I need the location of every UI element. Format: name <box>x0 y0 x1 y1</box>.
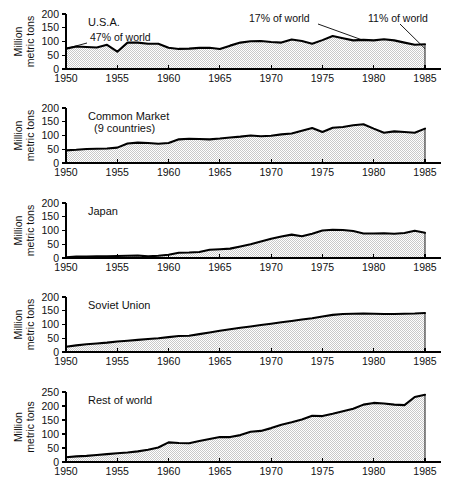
panel-series-label: Japan <box>88 205 118 217</box>
x-tick-label: 1975 <box>311 465 335 477</box>
x-tick-label: 1980 <box>362 166 386 178</box>
x-tick-label: 1985 <box>413 261 437 273</box>
y-tick-label: 200 <box>41 102 59 114</box>
y-tick-label: 250 <box>41 386 59 398</box>
x-tick-label: 1970 <box>259 261 283 273</box>
x-tick-label: 1955 <box>106 355 130 367</box>
x-tick-label: 1960 <box>157 355 181 367</box>
chart-panel: 0501001502001950195519601965197019751980… <box>12 8 441 84</box>
y-axis-title-line2: metric tons <box>24 299 36 350</box>
x-tick-label: 1985 <box>413 465 437 477</box>
y-tick-label: 50 <box>47 49 59 61</box>
x-tick-label: 1950 <box>54 465 78 477</box>
x-tick-label: 1975 <box>311 166 335 178</box>
annotation-label: 11% of world <box>368 12 428 24</box>
y-axis-title-line1: Million <box>12 26 24 56</box>
x-tick-label: 1985 <box>413 355 437 367</box>
x-tick-label: 1970 <box>259 355 283 367</box>
x-tick-label: 1950 <box>54 261 78 273</box>
chart-panel: 0501001502002501950195519601965197019751… <box>12 386 441 477</box>
y-tick-label: 150 <box>41 304 59 316</box>
x-tick-label: 1965 <box>208 261 232 273</box>
x-tick-label: 1950 <box>54 355 78 367</box>
y-tick-label: 100 <box>41 318 59 330</box>
x-tick-label: 1975 <box>311 261 335 273</box>
chart-panel: 0501001502001950195519601965197019751980… <box>12 291 441 367</box>
chart-canvas: 0501001502001950195519601965197019751980… <box>0 0 459 501</box>
y-axis-title-line1: Million <box>12 215 24 245</box>
x-tick-label: 1965 <box>208 72 232 84</box>
x-tick-label: 1960 <box>157 261 181 273</box>
y-tick-label: 100 <box>41 35 59 47</box>
y-axis-title-line1: Million <box>12 309 24 339</box>
x-tick-label: 1955 <box>106 166 130 178</box>
chart-panel: 0501001502001950195519601965197019751980… <box>12 197 441 273</box>
x-tick-label: 1985 <box>413 166 437 178</box>
y-tick-label: 100 <box>41 129 59 141</box>
chart-panel: 0501001502001950195519601965197019751980… <box>12 102 441 178</box>
x-tick-label: 1950 <box>54 166 78 178</box>
y-tick-label: 50 <box>47 238 59 250</box>
y-axis-title-line2: metric tons <box>24 205 36 256</box>
annotation-label: 47% of world <box>90 31 151 43</box>
y-tick-label: 150 <box>41 115 59 127</box>
x-tick-label: 1955 <box>106 465 130 477</box>
y-tick-label: 150 <box>41 414 59 426</box>
x-tick-label: 1955 <box>106 261 130 273</box>
y-tick-label: 200 <box>41 291 59 303</box>
x-tick-label: 1970 <box>259 465 283 477</box>
panel-series-label: Rest of world <box>88 394 152 406</box>
y-axis-title-line2: metric tons <box>24 110 36 161</box>
panel-series-label: Common Market <box>88 110 169 122</box>
steel-production-figure: 0501001502001950195519601965197019751980… <box>0 0 459 501</box>
panel-series-label: U.S.A. <box>88 16 120 28</box>
panel-series-label: Soviet Union <box>88 299 150 311</box>
y-axis-title-line1: Million <box>12 412 24 442</box>
x-tick-label: 1970 <box>259 72 283 84</box>
area-fill <box>66 313 425 352</box>
x-tick-label: 1960 <box>157 465 181 477</box>
y-tick-label: 150 <box>41 210 59 222</box>
y-tick-label: 200 <box>41 400 59 412</box>
x-tick-label: 1980 <box>362 72 386 84</box>
x-tick-label: 1965 <box>208 355 232 367</box>
x-tick-label: 1950 <box>54 72 78 84</box>
x-tick-label: 1960 <box>157 72 181 84</box>
x-tick-label: 1980 <box>362 261 386 273</box>
x-tick-label: 1965 <box>208 166 232 178</box>
y-tick-label: 200 <box>41 197 59 209</box>
x-tick-label: 1980 <box>362 355 386 367</box>
y-tick-label: 100 <box>41 428 59 440</box>
x-tick-label: 1960 <box>157 166 181 178</box>
y-tick-label: 50 <box>47 332 59 344</box>
y-axis-title-line2: metric tons <box>24 16 36 67</box>
x-tick-label: 1975 <box>311 72 335 84</box>
panel-series-label-line2: (9 countries) <box>94 122 155 134</box>
y-tick-label: 150 <box>41 21 59 33</box>
y-tick-label: 50 <box>47 143 59 155</box>
x-tick-label: 1970 <box>259 166 283 178</box>
y-tick-label: 100 <box>41 224 59 236</box>
x-tick-label: 1955 <box>106 72 130 84</box>
annotation-label: 17% of world <box>249 12 310 24</box>
y-axis-title-line2: metric tons <box>24 401 36 452</box>
x-tick-label: 1965 <box>208 465 232 477</box>
y-tick-label: 200 <box>41 8 59 20</box>
x-tick-label: 1975 <box>311 355 335 367</box>
x-tick-label: 1980 <box>362 465 386 477</box>
x-tick-label: 1985 <box>413 72 437 84</box>
y-tick-label: 50 <box>47 442 59 454</box>
y-axis-title-line1: Million <box>12 120 24 150</box>
